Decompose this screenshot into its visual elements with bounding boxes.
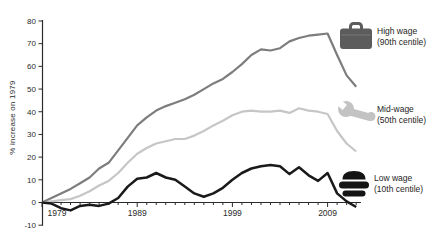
y-tick-label: 60 xyxy=(27,62,36,71)
legend-sublabel-mid-wage: (50th centile) xyxy=(377,115,426,126)
x-tick-label: 1999 xyxy=(223,208,242,218)
y-tick-label: -10 xyxy=(24,221,36,230)
series-line-mid-wage xyxy=(42,108,356,202)
burger-icon xyxy=(338,168,370,198)
legend-label-low-wage: Low wage xyxy=(374,173,423,184)
y-tick-label: 40 xyxy=(27,108,36,117)
y-tick-label: 70 xyxy=(27,39,36,48)
legend-item-mid-wage: Mid-wage (50th centile) xyxy=(336,99,426,127)
x-tick-label: 2009 xyxy=(318,208,337,218)
y-tick-label: 80 xyxy=(27,17,36,26)
y-tick-label: 50 xyxy=(27,85,36,94)
legend-label-high-wage: High wage xyxy=(377,26,426,37)
y-tick-label: 20 xyxy=(27,153,36,162)
y-tick-label: 10 xyxy=(27,176,36,185)
series-line-high-wage xyxy=(42,34,356,203)
wrench-icon xyxy=(336,99,376,127)
y-tick-label: 0 xyxy=(32,198,37,207)
y-axis-label: % increase on 1979 xyxy=(8,66,17,170)
legend-label-mid-wage: Mid-wage xyxy=(377,104,426,115)
series-line-low-wage xyxy=(42,165,356,210)
legend-sublabel-low-wage: (10th centile) xyxy=(374,184,423,195)
wage-growth-chart: 80706050403020100-101979198919992009 % i… xyxy=(0,0,443,237)
y-tick-label: 30 xyxy=(27,130,36,139)
x-tick-label: 1989 xyxy=(128,208,147,218)
legend-sublabel-high-wage: (90th centile) xyxy=(377,37,426,48)
legend-item-high-wage: High wage (90th centile) xyxy=(339,22,426,50)
briefcase-icon xyxy=(339,22,373,50)
legend-item-low-wage: Low wage (10th centile) xyxy=(338,168,423,198)
